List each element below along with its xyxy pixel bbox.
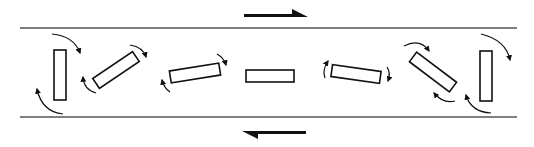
rotation-arrow-icon	[404, 43, 429, 51]
rigid-particles	[54, 50, 492, 101]
particle-3	[169, 63, 220, 83]
rotation-arrow-icon	[162, 80, 170, 92]
bottom-shear-arrow	[242, 131, 306, 139]
rotation-arrow-icon	[324, 61, 328, 78]
particle-7	[480, 51, 492, 101]
rotation-arrow-icon	[387, 67, 389, 81]
shear-rotation-diagram	[0, 0, 534, 147]
particle-6	[409, 52, 456, 92]
rotation-arrow-icon	[434, 93, 455, 102]
rotation-arrows	[37, 34, 510, 114]
rotation-arrow-icon	[37, 89, 63, 114]
particle-2	[93, 52, 140, 89]
particle-5	[331, 65, 381, 84]
top-shear-arrow	[244, 9, 308, 17]
particle-1	[54, 50, 66, 100]
rotation-arrow-icon	[466, 95, 491, 113]
rotation-arrow-icon	[481, 34, 510, 60]
particle-4	[246, 70, 294, 82]
